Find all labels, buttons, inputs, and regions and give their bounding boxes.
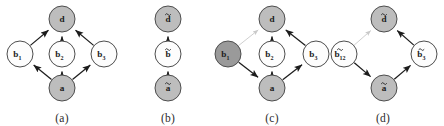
edge-a-to-b1	[34, 65, 52, 79]
edge-b12t-to-at	[354, 63, 370, 77]
node-label-at: a	[166, 83, 171, 93]
graph-svg: dba	[116, 0, 220, 126]
panel-caption: (d)	[322, 112, 444, 124]
graph-node-a[interactable]: a	[259, 75, 285, 101]
node-label-a: a	[270, 83, 275, 93]
diagram-panel-c: db1b2b3a(c)	[206, 0, 338, 126]
graph-node-b1[interactable]: b1	[7, 41, 33, 67]
node-label-at: a	[382, 83, 387, 93]
panel-caption: (c)	[206, 112, 338, 124]
node-label-d: d	[59, 14, 64, 24]
graph-svg: db12b3a	[322, 0, 444, 126]
graph-node-b3[interactable]: b3	[91, 41, 117, 67]
graph-node-bt[interactable]: b	[155, 41, 181, 67]
node-group: db1b2b3a	[7, 6, 117, 101]
graph-node-b3t[interactable]: b3	[411, 41, 437, 67]
graph-node-d[interactable]: d	[49, 6, 75, 32]
edge-a-to-b3	[72, 65, 90, 79]
graph-node-d[interactable]: d	[259, 6, 285, 32]
graph-node-dt[interactable]: d	[371, 6, 397, 32]
graph-svg: db1b2b3a	[0, 0, 124, 126]
node-group: db12b3a	[331, 6, 437, 101]
edge-b12t-to-dt	[354, 31, 371, 46]
edge-group	[354, 31, 414, 80]
graph-node-b2[interactable]: b2	[259, 41, 285, 67]
diagram-panel-b: dba(b)	[116, 0, 220, 126]
node-group: dba	[155, 6, 181, 101]
node-group: db1b2b3a	[215, 6, 329, 101]
node-label-a: a	[60, 83, 65, 93]
edge-b1-to-d	[30, 30, 48, 45]
graph-node-b2[interactable]: b2	[49, 41, 75, 67]
graph-node-b12t[interactable]: b12	[331, 41, 357, 67]
graph-node-dt[interactable]: d	[155, 6, 181, 32]
edge-b3-to-d	[286, 30, 306, 46]
edge-b3t-to-dt	[397, 31, 414, 46]
graph-node-b1[interactable]: b1	[215, 41, 241, 67]
graph-node-at[interactable]: a	[371, 75, 397, 101]
graph-node-at[interactable]: a	[155, 75, 181, 101]
edge-b1-to-d	[239, 30, 259, 46]
graph-node-a[interactable]: a	[49, 75, 75, 101]
panel-caption: (a)	[0, 112, 124, 124]
figure-container: db1b2b3a(a)dba(b)db1b2b3a(c)db12b3a(d)	[0, 0, 444, 126]
diagram-panel-a: db1b2b3a(a)	[0, 0, 124, 126]
diagram-panel-d: db12b3a(d)	[322, 0, 444, 126]
node-label-d: d	[269, 14, 274, 24]
edge-at-to-b3t	[394, 65, 410, 79]
graph-svg: db1b2b3a	[206, 0, 338, 126]
edge-a-to-b3	[283, 65, 302, 80]
panel-caption: (b)	[116, 112, 220, 124]
edge-b3-to-d	[76, 30, 94, 45]
edge-b1-to-a	[239, 62, 258, 77]
